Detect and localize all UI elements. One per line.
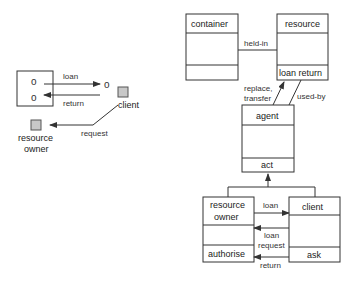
agent-class: agent act (242, 105, 294, 172)
loan-request-label-1: loan (264, 231, 279, 240)
held-in-label: held-in (244, 39, 268, 48)
client-class-name: client (302, 202, 324, 212)
container-token-2: o (31, 92, 37, 103)
resource-owner-label-2: owner (24, 144, 49, 154)
request-label: request (81, 129, 108, 138)
resource-owner-label-1: resource (18, 133, 53, 143)
resource-class-name: resource (285, 19, 320, 29)
return-message-label: return (260, 261, 281, 270)
client-class-operations: ask (307, 250, 322, 260)
replace-transfer-arrow (273, 82, 284, 105)
container-class-name: container (191, 19, 228, 29)
resource-owner-actor-icon (31, 120, 41, 130)
used-by-label: used-by (297, 92, 325, 101)
client-actor-label: client (118, 100, 140, 110)
container-class: container (186, 14, 238, 80)
loan-pattern-diagram: o o loan o return client request resourc… (0, 0, 353, 283)
client-actor-icon (118, 87, 128, 97)
resource-class: resource loan return (277, 14, 328, 80)
agent-class-operations: act (261, 160, 274, 170)
resource-owner-class-name-1: resource (210, 200, 245, 210)
replace-transfer-label-2: transfer (244, 94, 271, 103)
loan-request-label-2: request (258, 241, 285, 250)
container-token-1: o (31, 76, 37, 87)
resource-owner-class-operations: authorise (208, 249, 245, 259)
left-scenario: o o loan o return client request resourc… (17, 71, 140, 154)
loan-message-label: loan (263, 201, 278, 210)
request-arrow (50, 105, 118, 125)
return-label: return (63, 99, 84, 108)
client-class: client ask (289, 197, 340, 262)
loaned-token: o (104, 79, 110, 90)
agent-class-name: agent (256, 111, 279, 121)
resource-owner-class: resource owner authorise (203, 197, 254, 262)
loan-label: loan (63, 72, 78, 81)
generalization-arrow (228, 174, 315, 197)
replace-transfer-label-1: replace, (244, 84, 272, 93)
class-diagram: container held-in resource loan return r… (186, 14, 340, 270)
resource-class-operations: loan return (279, 68, 322, 78)
resource-owner-class-name-2: owner (214, 212, 239, 222)
